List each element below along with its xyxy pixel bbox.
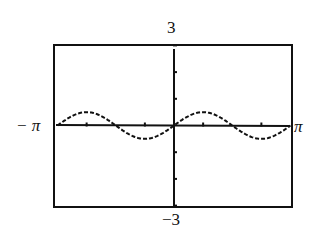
graph-window [0,0,334,242]
